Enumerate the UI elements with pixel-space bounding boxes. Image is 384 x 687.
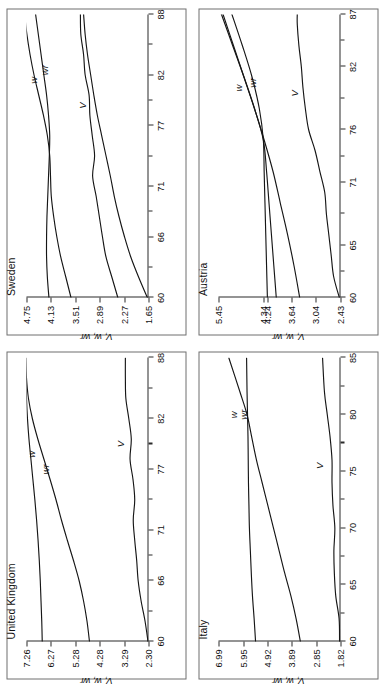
y-tick-label: 1.65 xyxy=(143,306,153,324)
series-line-wr2 xyxy=(222,14,299,298)
chart-panel-sweden: SwedenV, w, wr1.652.272.893.514.134.7560… xyxy=(0,0,192,344)
x-tick-label: 82 xyxy=(347,61,357,71)
y-tick xyxy=(340,641,341,646)
series-label-wr: wr xyxy=(38,65,49,75)
x-tick-label: 60 xyxy=(155,292,165,302)
series-line-V xyxy=(322,358,339,642)
x-tick xyxy=(148,468,153,469)
x-tick xyxy=(148,417,153,418)
figure-page: United KingdomV, w, wr2.303.294.285.286.… xyxy=(0,0,384,687)
y-axis-title: V, w, wr xyxy=(272,332,305,343)
y-tick-label: 3.64 xyxy=(286,306,296,324)
series-label-w: w xyxy=(233,84,244,91)
y-tick-label: 7.26 xyxy=(21,649,31,667)
plot-area xyxy=(218,14,340,298)
y-tick-label: 6.99 xyxy=(213,649,223,667)
x-minor-tick xyxy=(148,266,152,267)
y-tick xyxy=(75,298,76,303)
x-tick xyxy=(340,640,345,641)
y-tick-label: 4.75 xyxy=(21,306,31,324)
series-line-V2 xyxy=(83,14,147,298)
panel-title: Sweden xyxy=(4,257,16,296)
series-line-w xyxy=(246,358,255,642)
chart-panel-austria: AustriaV, w, wr2.433.043.644.244.345.456… xyxy=(192,0,384,344)
plot-area xyxy=(218,358,340,642)
x-tick-label: 82 xyxy=(155,413,165,423)
y-tick-label: 5.28 xyxy=(70,649,80,667)
x-tick-label: 88 xyxy=(155,352,165,362)
y-axis-title: V, w, wr xyxy=(80,332,113,343)
series-line-w xyxy=(26,14,70,298)
series-line-w xyxy=(221,14,276,298)
y-axis-title: V, w, wr xyxy=(272,676,305,687)
y-tick xyxy=(267,641,268,646)
y-tick xyxy=(148,298,149,303)
x-minor-tick xyxy=(148,554,152,555)
x-tick-label: 71 xyxy=(347,177,357,187)
series-label-V: V xyxy=(314,462,325,468)
y-tick xyxy=(316,641,317,646)
x-minor-tick xyxy=(340,97,344,98)
y-tick-label: 3.89 xyxy=(286,649,296,667)
x-tick xyxy=(148,13,153,14)
chart-panel-italy: ItalyV, w, wr1.822.853.894.925.956.99606… xyxy=(192,344,384,687)
plot-box: 1.822.853.894.925.956.99606570758085wwrV xyxy=(218,358,340,642)
y-tick xyxy=(291,298,292,303)
x-tick xyxy=(340,65,345,66)
series-line-wr xyxy=(35,14,49,298)
plot-area xyxy=(26,358,148,642)
x-minor-tick xyxy=(148,43,152,44)
y-tick xyxy=(218,641,219,646)
x-minor-tick xyxy=(340,498,344,499)
y-tick-label: 3.04 xyxy=(310,306,320,324)
x-tick-label: 77 xyxy=(155,120,165,130)
chart-panel-united-kingdom: United KingdomV, w, wr2.303.294.285.286.… xyxy=(0,344,192,687)
series-label-wr: wr xyxy=(246,77,257,87)
y-tick xyxy=(315,298,316,303)
x-tick-label: 66 xyxy=(155,232,165,242)
x-tick xyxy=(340,413,345,414)
series-label-w: w xyxy=(27,76,38,83)
x-minor-tick xyxy=(340,39,344,40)
x-tick xyxy=(340,244,345,245)
x-tick-label: 66 xyxy=(155,575,165,585)
y-tick-label: 3.29 xyxy=(119,649,129,667)
x-minor-tick xyxy=(340,555,344,556)
x-tick xyxy=(340,128,345,129)
panel-title: Italy xyxy=(196,619,208,639)
x-minor-tick xyxy=(340,385,344,386)
x-tick-label: 80 xyxy=(347,409,357,419)
x-tick xyxy=(148,185,153,186)
series-line-wr xyxy=(228,358,300,642)
plot-area xyxy=(26,14,148,298)
figure-stage: United KingdomV, w, wr2.303.294.285.286.… xyxy=(0,0,384,687)
y-tick-label: 4.92 xyxy=(262,649,272,667)
series-label-V: V xyxy=(114,440,125,446)
y-tick xyxy=(99,641,100,646)
x-tick-label: 75 xyxy=(347,466,357,476)
x-tick xyxy=(148,236,153,237)
x-tick-label: 77 xyxy=(155,464,165,474)
y-tick xyxy=(267,298,268,303)
x-tick xyxy=(340,13,345,14)
x-tick xyxy=(148,640,153,641)
x-tick xyxy=(340,356,345,357)
y-tick-label: 6.27 xyxy=(45,649,55,667)
y-tick-label: 2.85 xyxy=(311,649,321,667)
y-tick xyxy=(99,298,100,303)
x-tick-label: 88 xyxy=(155,9,165,19)
x-tick xyxy=(148,356,153,357)
y-tick xyxy=(124,298,125,303)
x-tick-label: 71 xyxy=(155,181,165,191)
y-tick-label: 4.34 xyxy=(258,306,268,324)
series-line-V xyxy=(125,358,148,642)
x-tick-label: 71 xyxy=(155,525,165,535)
y-tick xyxy=(243,641,244,646)
x-tick xyxy=(340,527,345,528)
panel-title: United Kingdom xyxy=(4,563,16,639)
x-minor-tick xyxy=(340,612,344,613)
panel-grid: United KingdomV, w, wr2.303.294.285.286.… xyxy=(0,0,384,687)
y-tick-label: 2.27 xyxy=(119,306,129,324)
x-minor-tick xyxy=(340,155,344,156)
x-tick xyxy=(148,529,153,530)
